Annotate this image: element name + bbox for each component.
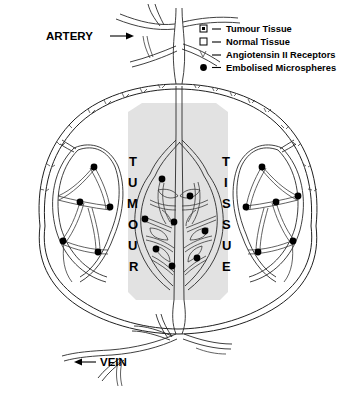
- normal-tissue-right: [233, 140, 303, 282]
- legend-symbol-tumour-tissue-fill-icon: [202, 27, 205, 30]
- microsphere: [295, 193, 302, 200]
- microsphere: [187, 193, 194, 200]
- artery-trunk: [116, 4, 240, 84]
- legend-symbol-normal-tissue-icon: [200, 38, 207, 45]
- tissue-letter-4: U: [222, 238, 231, 253]
- microsphere: [159, 176, 166, 183]
- legend-label-normal-tissue: Normal Tissue: [226, 37, 290, 47]
- artery-arrow-icon: [126, 33, 134, 40]
- microsphere: [77, 199, 84, 206]
- tissue-letter-0: T: [222, 154, 230, 169]
- tumour-letter-3: O: [128, 217, 138, 232]
- microsphere: [169, 263, 176, 270]
- microsphere: [259, 164, 266, 171]
- microsphere: [290, 238, 297, 245]
- legend-label-microspheres: Embolised Microspheres: [226, 63, 336, 73]
- vein-trunk: [62, 300, 232, 386]
- microsphere: [153, 246, 160, 253]
- tumour-letter-2: M: [127, 196, 138, 211]
- microsphere: [202, 228, 209, 235]
- microsphere: [91, 164, 98, 171]
- microsphere: [243, 204, 250, 211]
- microsphere: [255, 249, 262, 256]
- microsphere: [171, 219, 178, 226]
- tumour-letter-4: U: [128, 238, 137, 253]
- vein-arrow-icon: [74, 359, 82, 366]
- diagram-canvas: ARTERY VEIN T U M O U R T I S S U E Tumo…: [0, 0, 356, 394]
- tissue-letter-5: E: [222, 259, 231, 274]
- legend: Tumour Tissue Normal Tissue Angiotensin …: [200, 24, 336, 73]
- microsphere: [107, 204, 114, 211]
- tissue-letter-1: I: [224, 175, 228, 190]
- tumour-letter-1: U: [128, 175, 137, 190]
- vein-label: VEIN: [100, 356, 127, 368]
- microsphere: [273, 199, 280, 206]
- microsphere: [60, 238, 67, 245]
- artery-label-group: ARTERY: [46, 30, 134, 42]
- legend-label-receptors: Angiotensin II Receptors: [226, 50, 336, 60]
- tissue-letter-2: S: [222, 196, 231, 211]
- artery-label: ARTERY: [46, 30, 93, 42]
- vasculature-diagram: ARTERY VEIN T U M O U R T I S S U E Tumo…: [0, 0, 356, 394]
- microsphere: [142, 216, 149, 223]
- tumour-letter-5: R: [129, 259, 139, 274]
- normal-tissue-left: [53, 140, 123, 282]
- legend-label-tumour-tissue: Tumour Tissue: [226, 24, 292, 34]
- tissue-letter-3: S: [222, 217, 231, 232]
- microsphere: [95, 249, 102, 256]
- microsphere: [194, 255, 201, 262]
- legend-symbol-microsphere-icon: [200, 64, 207, 71]
- tumour-letter-0: T: [129, 154, 137, 169]
